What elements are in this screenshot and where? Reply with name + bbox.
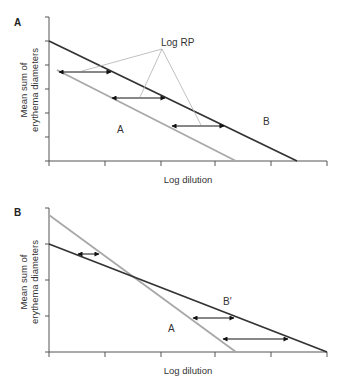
log-rp-callout: Log RP (161, 37, 195, 48)
panel-a-series-b-line (49, 41, 297, 161)
panel-b-series-b-prime-line (49, 244, 327, 352)
panel-a-series-a-label: A (117, 124, 124, 135)
y-axis-label-line1: Mean sum of (18, 254, 29, 309)
panel-a-y-axis-label: Mean sum of erythema diameters (18, 48, 40, 132)
panel-a: A Mean sum of erythema diameters (14, 17, 327, 185)
panel-b-series-a-label: A (168, 323, 175, 334)
panel-a-series-b-label: B (263, 116, 270, 127)
y-axis-label-line2: erythema diameters (29, 240, 40, 324)
figure: A Mean sum of erythema diameters (0, 0, 341, 386)
y-axis-label-line1: Mean sum of (18, 62, 29, 117)
y-axis-label-line2: erythema diameters (29, 48, 40, 132)
panel-a-x-axis-label: Log dilution (164, 174, 213, 185)
panel-b-x-axis-label: Log dilution (164, 365, 213, 376)
panel-b-label: B (14, 207, 21, 218)
panel-b-series-a-line (49, 215, 236, 352)
panel-b-y-axis-label: Mean sum of erythema diameters (18, 240, 40, 324)
panel-b-series-b-prime-label: B′ (223, 296, 232, 307)
panel-b: B Mean sum of erythema diameters (14, 207, 327, 376)
panel-a-arrows (59, 72, 224, 126)
panel-a-label: A (14, 17, 21, 28)
